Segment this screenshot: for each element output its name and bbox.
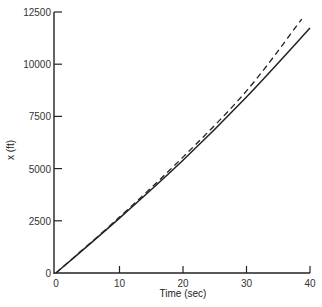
series-solid-line xyxy=(56,28,310,273)
x-tick-label: 40 xyxy=(304,278,316,289)
x-tick-label: 10 xyxy=(114,278,126,289)
y-tick-label: 5000 xyxy=(29,164,52,175)
y-tick-label: 2500 xyxy=(29,216,52,227)
x-tick-label: 30 xyxy=(241,278,253,289)
y-tick-label: 12500 xyxy=(23,7,51,18)
x-axis: 010203040 xyxy=(53,266,316,289)
y-axis: 02500500075001000012500 xyxy=(23,7,62,279)
y-axis-label: x (ft) xyxy=(5,140,16,160)
line-chart: 02500500075001000012500 010203040 Time (… xyxy=(0,0,322,307)
x-axis-label: Time (sec) xyxy=(160,288,207,299)
series-group xyxy=(56,19,310,273)
series-dashed-line xyxy=(56,19,302,273)
y-tick-label: 7500 xyxy=(29,111,52,122)
y-tick-label: 0 xyxy=(45,268,51,279)
x-tick-label: 0 xyxy=(53,278,59,289)
y-tick-label: 10000 xyxy=(23,59,51,70)
